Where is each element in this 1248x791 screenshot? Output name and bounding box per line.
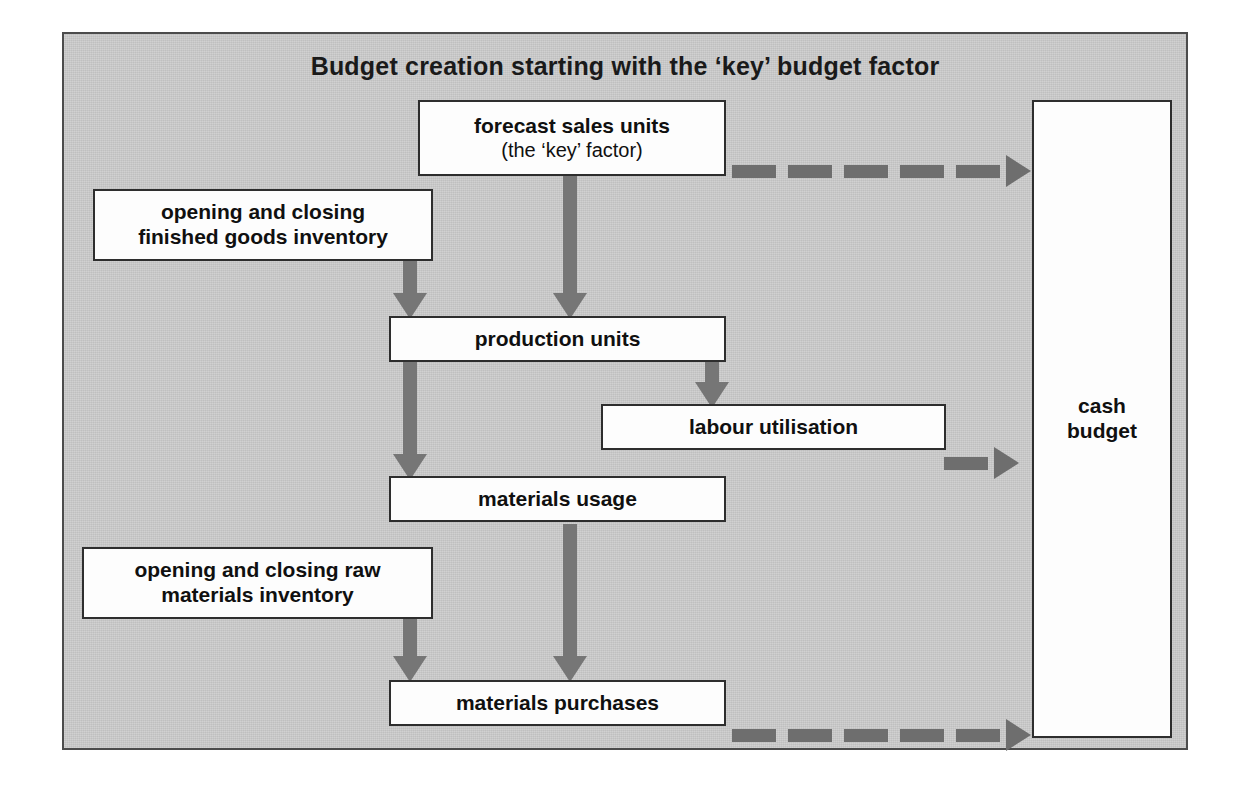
node-materials-purchases-label: materials purchases — [456, 691, 659, 716]
arrow-dash — [900, 165, 944, 178]
arrow-head-icon — [994, 447, 1019, 479]
arrow-labour-utilisation-to-cash-budget — [944, 447, 1044, 479]
node-raw-materials-inventory[interactable]: opening and closing raw materials invent… — [82, 547, 433, 619]
arrow-rm-inventory-to-materials-purchases — [390, 617, 430, 682]
arrow-forecast-sales-to-cash-budget — [732, 155, 1042, 187]
arrow-head-icon — [393, 656, 427, 682]
arrow-dash — [788, 165, 832, 178]
node-materials-purchases[interactable]: materials purchases — [389, 680, 726, 726]
arrow-shaft — [403, 360, 417, 457]
diagram-title: Budget creation starting with the ‘key’ … — [64, 52, 1186, 81]
node-forecast-sales-units[interactable]: forecast sales units (the ‘key’ factor) — [418, 100, 726, 176]
node-materials-usage[interactable]: materials usage — [389, 476, 726, 522]
node-cash-budget-line1: cash — [1078, 394, 1126, 419]
arrow-materials-usage-to-materials-purchases — [550, 524, 590, 682]
arrow-dash — [788, 729, 832, 742]
arrow-dash — [844, 165, 888, 178]
arrow-dash — [732, 729, 776, 742]
node-finished-goods-inventory-line1: opening and closing — [161, 200, 365, 225]
node-production-units-label: production units — [475, 327, 641, 352]
node-raw-materials-inventory-line2: materials inventory — [161, 583, 354, 608]
arrow-forecast-sales-to-production-units — [550, 174, 590, 319]
diagram-canvas: Budget creation starting with the ‘key’ … — [0, 0, 1248, 791]
arrow-head-icon — [553, 656, 587, 682]
node-finished-goods-inventory-line2: finished goods inventory — [138, 225, 388, 250]
node-cash-budget-line2: budget — [1067, 419, 1137, 444]
arrow-shaft — [403, 617, 417, 659]
node-forecast-sales-units-line1: forecast sales units — [474, 114, 670, 139]
arrow-dash — [900, 729, 944, 742]
node-cash-budget[interactable]: cash budget — [1032, 100, 1172, 738]
arrow-dash — [844, 729, 888, 742]
arrow-dash — [944, 457, 988, 470]
arrow-dash — [956, 165, 1000, 178]
arrow-head-icon — [1006, 719, 1031, 751]
arrow-dash — [956, 729, 1000, 742]
node-production-units[interactable]: production units — [389, 316, 726, 362]
node-labour-utilisation-label: labour utilisation — [689, 415, 858, 440]
arrow-production-units-to-materials-usage — [390, 360, 430, 480]
arrow-head-icon — [1006, 155, 1031, 187]
arrow-shaft — [563, 524, 577, 659]
arrow-dash — [732, 165, 776, 178]
arrow-shaft — [563, 174, 577, 296]
node-finished-goods-inventory[interactable]: opening and closing finished goods inven… — [93, 189, 433, 261]
node-raw-materials-inventory-line1: opening and closing raw — [134, 558, 380, 583]
diagram-panel: Budget creation starting with the ‘key’ … — [62, 32, 1188, 750]
arrow-materials-purchases-to-cash-budget — [732, 719, 1042, 751]
arrow-production-units-to-labour-utilisation — [692, 360, 732, 408]
node-materials-usage-label: materials usage — [478, 487, 637, 512]
node-labour-utilisation[interactable]: labour utilisation — [601, 404, 946, 450]
node-forecast-sales-units-line2: (the ‘key’ factor) — [501, 139, 643, 163]
